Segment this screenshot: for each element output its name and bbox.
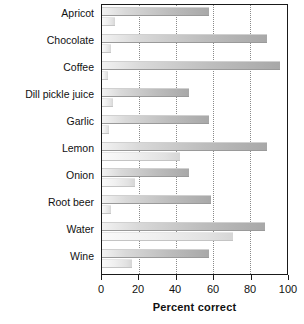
x-tick-label-40: 40 bbox=[169, 283, 181, 296]
y-label-root-beer: Root beer bbox=[48, 197, 94, 208]
bar-lemon-series-a bbox=[102, 142, 267, 151]
bar-group-onion bbox=[102, 167, 287, 194]
x-tick-0 bbox=[101, 275, 102, 280]
bar-group-coffee bbox=[102, 60, 287, 87]
bar-coffee-series-a bbox=[102, 61, 280, 70]
bar-water-series-a bbox=[102, 222, 265, 231]
bar-group-garlic bbox=[102, 114, 287, 141]
bar-garlic-series-a bbox=[102, 115, 209, 124]
bar-lemon-series-b bbox=[102, 152, 180, 161]
y-label-wine: Wine bbox=[70, 251, 94, 262]
bar-group-dill-pickle-juice bbox=[102, 87, 287, 114]
bar-root-beer-series-a bbox=[102, 195, 211, 204]
bar-chocolate-series-b bbox=[102, 44, 111, 53]
bar-chocolate-series-a bbox=[102, 34, 267, 43]
plot-area bbox=[101, 4, 288, 275]
x-tick-80 bbox=[251, 275, 252, 280]
y-label-onion: Onion bbox=[66, 170, 94, 181]
x-tick-20 bbox=[138, 275, 139, 280]
bar-onion-series-a bbox=[102, 168, 189, 177]
x-tick-label-20: 20 bbox=[132, 283, 144, 296]
bar-water-series-b bbox=[102, 232, 233, 241]
x-tick-40 bbox=[176, 275, 177, 280]
bar-rows bbox=[102, 5, 287, 274]
bar-wine-series-b bbox=[102, 259, 132, 268]
y-axis-labels: Apricot Chocolate Coffee Dill pickle jui… bbox=[0, 4, 98, 275]
y-label-chocolate: Chocolate bbox=[47, 35, 94, 46]
x-tick-100 bbox=[288, 275, 289, 280]
x-tick-label-0: 0 bbox=[98, 283, 104, 296]
x-axis-ticks bbox=[101, 275, 288, 283]
bar-coffee-series-b bbox=[102, 71, 108, 80]
x-tick-60 bbox=[213, 275, 214, 280]
bar-group-lemon bbox=[102, 141, 287, 168]
y-label-garlic: Garlic bbox=[67, 116, 94, 127]
bar-group-root-beer bbox=[102, 194, 287, 221]
y-label-lemon: Lemon bbox=[62, 143, 94, 154]
y-label-water: Water bbox=[66, 224, 94, 235]
bar-root-beer-series-b bbox=[102, 205, 111, 214]
x-tick-label-100: 100 bbox=[279, 283, 297, 296]
bar-chart: Apricot Chocolate Coffee Dill pickle jui… bbox=[0, 0, 304, 324]
bar-group-chocolate bbox=[102, 33, 287, 60]
bar-group-wine bbox=[102, 248, 287, 275]
y-label-dill-pickle-juice: Dill pickle juice bbox=[25, 89, 94, 100]
bar-garlic-series-b bbox=[102, 125, 109, 134]
bar-onion-series-b bbox=[102, 178, 135, 187]
bar-group-water bbox=[102, 221, 287, 248]
x-tick-label-60: 60 bbox=[207, 283, 219, 296]
bar-dill-pickle-juice-series-b bbox=[102, 98, 113, 107]
bar-dill-pickle-juice-series-a bbox=[102, 88, 189, 97]
x-axis-tick-labels: 0 20 40 60 80 100 bbox=[0, 283, 304, 297]
x-tick-label-80: 80 bbox=[244, 283, 256, 296]
bar-group-apricot bbox=[102, 6, 287, 33]
y-label-coffee: Coffee bbox=[63, 62, 94, 73]
bar-apricot-series-b bbox=[102, 17, 115, 26]
bar-apricot-series-a bbox=[102, 7, 209, 16]
x-axis-title: Percent correct bbox=[101, 301, 288, 313]
y-label-apricot: Apricot bbox=[61, 8, 94, 19]
bar-wine-series-a bbox=[102, 249, 209, 258]
